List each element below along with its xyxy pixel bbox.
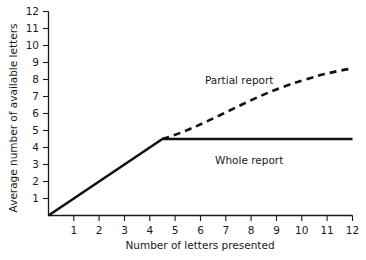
chart-figure: 1 2 3 4 5 6 7 8 9 10 11 12 (0, 0, 366, 260)
x-tick-label: 3 (121, 224, 128, 236)
y-axis-title: Average number of available letters (7, 24, 19, 213)
x-tick-label: 1 (70, 224, 77, 236)
x-tick-label: 10 (295, 224, 308, 236)
annotation-whole-report: Whole report (215, 154, 283, 166)
x-tick-label: 2 (96, 224, 103, 236)
annotation-partial-report: Partial report (205, 74, 273, 86)
y-tick-label: 5 (32, 124, 39, 136)
x-tick-label: 9 (273, 224, 280, 236)
x-tick-label: 11 (320, 224, 333, 236)
y-tick-label: 11 (26, 22, 39, 34)
y-tick-label: 12 (26, 5, 39, 17)
x-tick-label: 7 (222, 224, 229, 236)
y-axis-tick-labels: 1 2 3 4 5 6 7 8 9 10 11 12 (26, 5, 40, 204)
x-axis-ticks (74, 216, 353, 222)
y-tick-label: 6 (32, 107, 39, 119)
x-tick-label: 8 (248, 224, 255, 236)
y-tick-label: 7 (32, 90, 39, 102)
y-tick-label: 10 (26, 39, 39, 51)
y-tick-label: 9 (32, 56, 39, 68)
y-tick-label: 8 (32, 73, 39, 85)
x-tick-label: 5 (172, 224, 179, 236)
x-axis-title: Number of letters presented (125, 239, 274, 251)
x-tick-label: 4 (146, 224, 153, 236)
y-tick-label: 2 (32, 175, 39, 187)
x-tick-label: 6 (197, 224, 204, 236)
y-tick-label: 4 (32, 141, 39, 153)
y-axis-ticks (43, 12, 49, 199)
y-tick-label: 1 (32, 192, 39, 204)
x-axis-tick-labels: 1 2 3 4 5 6 7 8 9 10 11 12 (70, 224, 359, 236)
line-chart: 1 2 3 4 5 6 7 8 9 10 11 12 (0, 0, 366, 260)
x-tick-label: 12 (346, 224, 359, 236)
series-whole-report (49, 139, 353, 216)
y-tick-label: 3 (32, 158, 39, 170)
